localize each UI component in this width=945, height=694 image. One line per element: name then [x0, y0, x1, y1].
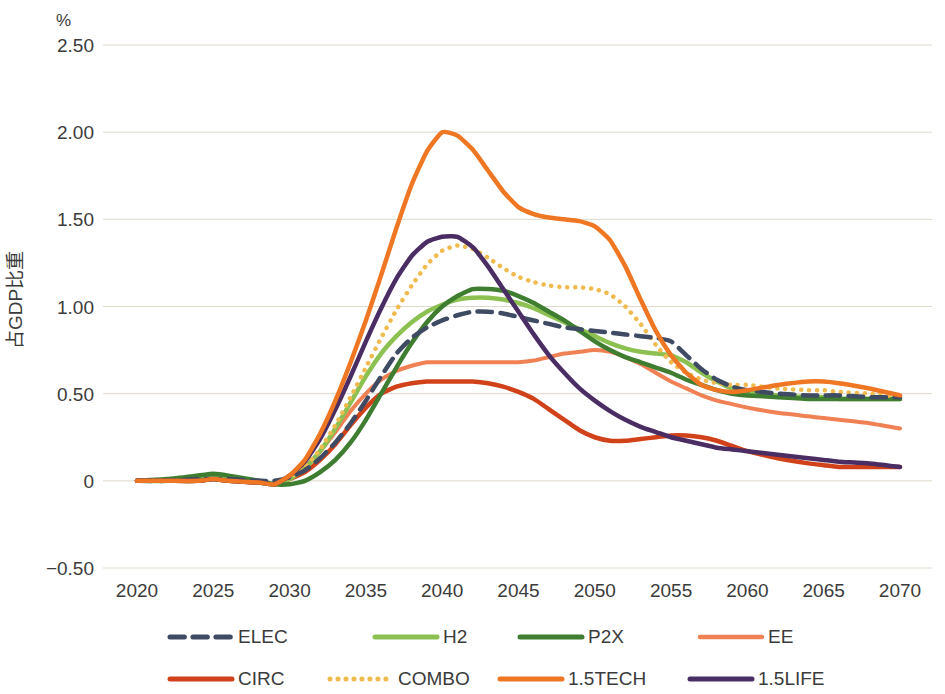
x-axis-tick-label: 2035	[345, 580, 387, 601]
y-axis-tick-label: 1.50	[57, 209, 94, 230]
legend-label-ee: EE	[768, 626, 793, 647]
legend-label-1-5tech: 1.5TECH	[568, 668, 646, 689]
y-axis-tick-labels: −0.5000.501.001.502.002.50	[46, 35, 94, 579]
y-axis-unit-label: %	[56, 11, 71, 30]
x-axis-tick-label: 2025	[192, 580, 234, 601]
x-axis-tick-label: 2055	[650, 580, 692, 601]
series-lines	[137, 132, 900, 485]
x-axis-tick-label: 2040	[421, 580, 463, 601]
series-line-ee	[137, 350, 900, 484]
y-axis-tick-label: 2.00	[57, 122, 94, 143]
legend-label-elec: ELEC	[238, 626, 288, 647]
x-axis-tick-label: 2070	[879, 580, 921, 601]
legend-label-h2: H2	[443, 626, 467, 647]
y-axis-tick-label: 2.50	[57, 35, 94, 56]
y-axis-tick-label: 0.50	[57, 384, 94, 405]
y-axis-tick-label: −0.50	[46, 558, 94, 579]
x-axis-tick-label: 2020	[116, 580, 158, 601]
y-axis-title: 占GDP比重	[5, 251, 26, 349]
x-axis-tick-label: 2050	[574, 580, 616, 601]
chart-container: −0.5000.501.001.502.002.50 2020202520302…	[0, 0, 945, 694]
series-line-combo	[137, 245, 900, 484]
y-axis-tick-label: 0	[83, 471, 94, 492]
line-chart: −0.5000.501.001.502.002.50 2020202520302…	[0, 0, 945, 694]
x-axis-tick-label: 2060	[726, 580, 768, 601]
legend-label-circ: CIRC	[238, 668, 284, 689]
x-axis-tick-label: 2065	[803, 580, 845, 601]
y-axis-tick-label: 1.00	[57, 297, 94, 318]
x-axis-tick-label: 2030	[268, 580, 310, 601]
legend-label-p2x: P2X	[588, 626, 624, 647]
chart-legend: ELECH2P2XEECIRCCOMBO1.5TECH1.5LIFE	[170, 626, 825, 689]
x-axis-tick-label: 2045	[497, 580, 539, 601]
x-axis-tick-labels: 2020202520302035204020452050205520602065…	[116, 580, 921, 601]
legend-label-1-5life: 1.5LIFE	[758, 668, 825, 689]
legend-label-combo: COMBO	[398, 668, 470, 689]
